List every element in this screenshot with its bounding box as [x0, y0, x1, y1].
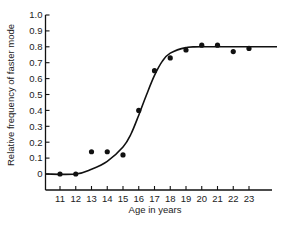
data-point — [215, 43, 220, 48]
x-tick-label: 19 — [181, 193, 192, 204]
data-point — [105, 149, 110, 154]
sigmoid-chart: 00.10.20.30.40.50.60.70.80.91.0 11121314… — [0, 0, 287, 227]
data-point — [136, 108, 141, 113]
y-tick-label: 0.6 — [29, 73, 42, 84]
data-points — [57, 43, 251, 177]
y-tick-label: 0.4 — [29, 105, 42, 116]
y-tick-label: 0.1 — [29, 152, 42, 163]
x-tick-label: 13 — [86, 193, 97, 204]
x-tick-label: 17 — [149, 193, 160, 204]
x-tick-label: 16 — [133, 193, 144, 204]
x-tick-label: 20 — [196, 193, 207, 204]
data-point — [73, 171, 78, 176]
x-tick-label: 12 — [70, 193, 81, 204]
x-tick-label: 22 — [228, 193, 239, 204]
x-tick-label: 11 — [55, 193, 65, 204]
x-axis-label: Age in years — [129, 204, 182, 215]
data-point — [89, 149, 94, 154]
data-point — [168, 55, 173, 60]
data-point — [152, 68, 157, 73]
y-axis-label: Relative frequency of faster mode — [5, 24, 16, 166]
x-tick-label: 18 — [165, 193, 176, 204]
data-point — [120, 152, 125, 157]
data-point — [57, 171, 62, 176]
x-tick-label: 23 — [244, 193, 255, 204]
y-tick-label: 0.7 — [29, 57, 42, 68]
data-point — [183, 47, 188, 52]
data-point — [246, 46, 251, 51]
y-tick-label: 0.5 — [29, 89, 42, 100]
y-tick-label: 0.2 — [29, 137, 42, 148]
x-axis: 11121314151617181920212223 — [46, 186, 273, 204]
x-tick-label: 14 — [102, 193, 113, 204]
y-tick-label: 0.3 — [29, 121, 42, 132]
data-point — [199, 43, 204, 48]
x-tick-label: 21 — [212, 193, 223, 204]
data-point — [231, 49, 236, 54]
y-tick-label: 0 — [37, 168, 42, 179]
y-tick-label: 0.9 — [29, 25, 42, 36]
y-tick-label: 1.0 — [29, 9, 42, 20]
y-tick-label: 0.8 — [29, 41, 42, 52]
fitted-curve — [46, 47, 278, 175]
y-axis: 00.10.20.30.40.50.60.70.80.91.0 — [29, 9, 49, 190]
x-tick-label: 15 — [118, 193, 129, 204]
